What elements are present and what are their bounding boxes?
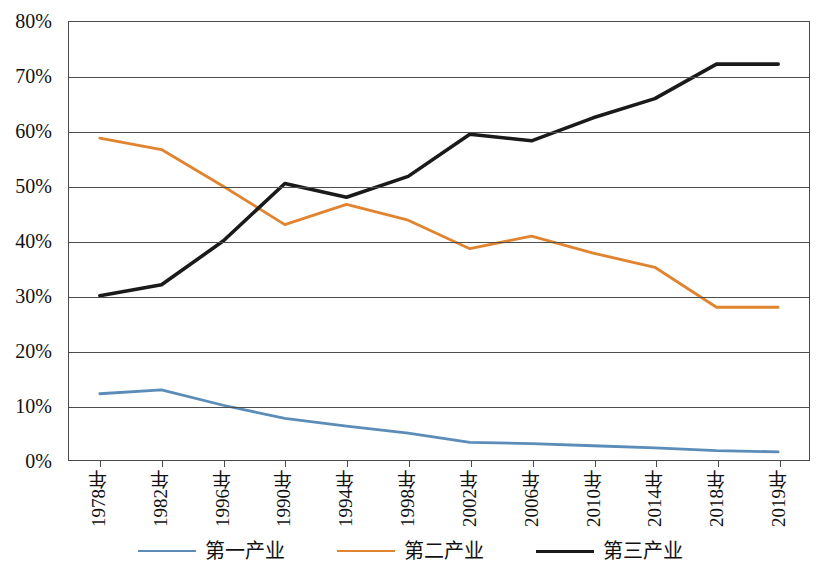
x-axis-tick: [100, 460, 101, 467]
gridline: [69, 352, 809, 353]
legend-item[interactable]: 第一产业: [138, 541, 285, 561]
x-axis-tick-label: 1978年: [89, 470, 108, 527]
x-axis-tick-label: 2014年: [645, 470, 664, 527]
x-axis-tick-label: 2006年: [522, 470, 541, 527]
legend-label: 第三产业: [603, 541, 683, 561]
gridline: [69, 187, 809, 188]
y-axis-tick-label: 10%: [15, 396, 52, 416]
x-axis: 1978年1982年1996年1990年1994年1998年2002年2006年…: [68, 470, 810, 528]
series-line: [100, 64, 778, 296]
y-axis-tick-label: 70%: [15, 66, 52, 86]
series-line: [100, 390, 778, 452]
x-axis-tick: [162, 460, 163, 467]
gridline: [69, 77, 809, 78]
y-axis-tick-label: 30%: [15, 286, 52, 306]
x-axis-tick-label: 1982年: [151, 470, 170, 527]
legend-color-swatch: [138, 550, 196, 552]
y-axis-tick-label: 50%: [15, 176, 52, 196]
legend-label: 第一产业: [205, 541, 285, 561]
x-axis-tick: [595, 460, 596, 467]
line-chart: 80%70%60%50%40%30%20%10%0% 1978年1982年199…: [0, 0, 821, 566]
y-axis-tick-label: 20%: [15, 341, 52, 361]
legend-label: 第二产业: [404, 541, 484, 561]
legend-item[interactable]: 第二产业: [337, 541, 484, 561]
series-line: [100, 138, 778, 307]
y-axis-tick-label: 80%: [15, 11, 52, 31]
legend-color-swatch: [536, 550, 594, 553]
x-axis-tick-label: 1994年: [336, 470, 355, 527]
y-axis-tick-label: 60%: [15, 121, 52, 141]
x-axis-tick: [780, 460, 781, 467]
x-axis-tick: [533, 460, 534, 467]
x-axis-tick-label: 1998年: [398, 470, 417, 527]
chart-legend: 第一产业第二产业第三产业: [0, 536, 821, 566]
x-axis-tick: [347, 460, 348, 467]
gridline: [69, 407, 809, 408]
gridline: [69, 132, 809, 133]
x-axis-tick-label: 1990年: [274, 470, 293, 527]
legend-color-swatch: [337, 550, 395, 552]
x-axis-tick-label: 2002年: [460, 470, 479, 527]
x-axis-tick: [285, 460, 286, 467]
x-axis-tick-label: 1996年: [213, 470, 232, 527]
x-axis-tick: [409, 460, 410, 467]
series-lines: [69, 22, 809, 460]
y-axis: 80%70%60%50%40%30%20%10%0%: [0, 0, 62, 566]
x-axis-tick-label: 2018年: [707, 470, 726, 527]
x-axis-tick: [224, 460, 225, 467]
y-axis-tick-label: 0%: [25, 451, 52, 471]
x-axis-tick: [718, 460, 719, 467]
x-axis-tick: [471, 460, 472, 467]
x-axis-tick-label: 2019年: [769, 470, 788, 527]
gridline: [69, 242, 809, 243]
gridline: [69, 297, 809, 298]
legend-item[interactable]: 第三产业: [536, 541, 683, 561]
x-axis-tick: [656, 460, 657, 467]
plot-area: [68, 21, 810, 461]
x-axis-tick-label: 2010年: [584, 470, 603, 527]
y-axis-tick-label: 40%: [15, 231, 52, 251]
